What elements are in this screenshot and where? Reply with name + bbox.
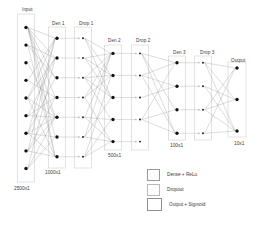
node-den2-1 bbox=[111, 74, 114, 77]
edge-drop2-den3-0-0 bbox=[142, 53, 175, 62]
node-drop3-0 bbox=[202, 62, 204, 64]
edge-drop1-den2-1-0 bbox=[85, 53, 111, 58]
edge-input-den1-0-5 bbox=[28, 27, 55, 137]
arrowhead-den1-drop1-6 bbox=[78, 156, 79, 158]
dim-label-output: 10x1 bbox=[234, 141, 244, 146]
node-drop3-1 bbox=[202, 85, 204, 87]
edge-drop3-output-3-0 bbox=[205, 68, 235, 133]
edge-drop1-den2-0-2 bbox=[85, 38, 111, 97]
node-output-2 bbox=[235, 129, 238, 132]
arrowhead-den1-drop1-1 bbox=[78, 57, 79, 59]
node-den1-0 bbox=[55, 37, 58, 40]
node-den1-1 bbox=[55, 56, 58, 59]
arrowhead-den2-drop2-3 bbox=[135, 119, 136, 121]
node-drop3-3 bbox=[202, 132, 204, 134]
node-drop2-1 bbox=[139, 75, 141, 77]
node-input-1 bbox=[24, 43, 27, 46]
layer-label-den2: Den 2 bbox=[108, 38, 121, 43]
arrowhead-den1-drop1-2 bbox=[78, 77, 79, 79]
node-den1-2 bbox=[55, 76, 58, 79]
layer-label-drop1: Drop 1 bbox=[79, 21, 93, 26]
arrowhead-den3-drop3-1 bbox=[198, 85, 199, 87]
node-drop1-6 bbox=[82, 156, 84, 158]
node-input-7 bbox=[24, 149, 27, 152]
edge-input-den1-2-4 bbox=[28, 63, 55, 118]
edge-input-den1-0-1 bbox=[28, 27, 55, 58]
node-den2-0 bbox=[111, 52, 114, 55]
layer-box-den3 bbox=[169, 56, 186, 140]
node-input-3 bbox=[24, 79, 27, 82]
diagram-canvas: Input Den 1 Drop 1 Den 2 Drop 2 Den 3 Dr… bbox=[0, 0, 266, 225]
node-drop1-3 bbox=[82, 97, 84, 99]
node-den2-4 bbox=[111, 140, 114, 143]
node-den2-3 bbox=[111, 118, 114, 121]
node-output-1 bbox=[235, 98, 238, 101]
legend-swatch-dense bbox=[147, 169, 160, 181]
edge-drop1-den2-2-1 bbox=[85, 75, 111, 77]
edge-drop2-den3-1-0 bbox=[142, 63, 175, 76]
legend-item-drop: Dropout bbox=[147, 183, 184, 196]
node-drop1-0 bbox=[82, 37, 84, 39]
edge-drop2-den3-1-3 bbox=[142, 75, 175, 133]
layer-label-den3: Den 3 bbox=[173, 50, 186, 55]
node-den2-2 bbox=[111, 96, 114, 99]
arrowhead-den1-drop1-5 bbox=[78, 136, 79, 138]
edge-drop3-output-0-1 bbox=[205, 63, 235, 100]
dim-label-den1: 1000x1 bbox=[45, 170, 61, 175]
node-drop2-0 bbox=[139, 52, 141, 54]
node-drop2-4 bbox=[139, 141, 141, 143]
arrowhead-den3-drop3-3 bbox=[198, 132, 199, 134]
edge-drop1-den2-4-3 bbox=[85, 117, 111, 119]
edge-drop3-output-3-2 bbox=[205, 131, 235, 133]
edge-input-den1-0-4 bbox=[28, 27, 55, 117]
arrowhead-den3-drop3-2 bbox=[198, 109, 199, 111]
arrowhead-den1-drop1-3 bbox=[78, 97, 79, 99]
legend-swatch-out bbox=[147, 198, 162, 211]
node-drop1-5 bbox=[82, 136, 84, 138]
node-input-6 bbox=[24, 132, 27, 135]
arrowhead-den1-drop1-0 bbox=[78, 37, 79, 39]
layer-label-drop3: Drop 3 bbox=[200, 50, 214, 55]
dim-label-den2: 500x1 bbox=[108, 153, 121, 158]
edge-drop2-den3-2-1 bbox=[142, 86, 175, 97]
edge-drop1-den2-3-0 bbox=[85, 53, 111, 97]
node-den1-4 bbox=[55, 116, 58, 119]
node-drop2-2 bbox=[139, 97, 141, 99]
arrowhead-den2-drop2-2 bbox=[135, 97, 136, 99]
node-den3-1 bbox=[175, 85, 178, 88]
dropout-arrows bbox=[60, 37, 200, 157]
edge-drop1-den2-5-2 bbox=[85, 98, 111, 137]
dim-label-den3: 100x1 bbox=[170, 143, 183, 148]
layer-box-drop3 bbox=[195, 56, 212, 140]
edge-drop1-den2-3-4 bbox=[85, 98, 111, 142]
legend-item-out: Output + Sigmoid bbox=[147, 198, 205, 211]
node-den1-3 bbox=[55, 96, 58, 99]
edge-input-den1-0-0 bbox=[28, 27, 55, 38]
node-drop3-2 bbox=[202, 109, 204, 111]
node-output-0 bbox=[235, 66, 238, 69]
legend-swatch-drop bbox=[147, 184, 160, 196]
layer-boxes bbox=[18, 14, 247, 182]
arrowhead-den2-drop2-4 bbox=[135, 141, 136, 143]
layer-label-drop2: Drop 2 bbox=[136, 38, 150, 43]
node-den3-3 bbox=[175, 132, 178, 135]
edge-drop1-den2-3-1 bbox=[85, 75, 111, 97]
legend-label-dense: Dense + ReLu bbox=[167, 172, 197, 177]
node-input-2 bbox=[24, 61, 27, 64]
node-den1-6 bbox=[55, 155, 58, 158]
layer-label-input: Input bbox=[22, 7, 33, 12]
edge-drop1-den2-5-0 bbox=[85, 53, 111, 137]
edge-input-den1-5-4 bbox=[28, 116, 55, 118]
arrowhead-den1-drop1-4 bbox=[78, 116, 79, 118]
node-input-4 bbox=[24, 96, 27, 99]
edge-drop2-den3-0-3 bbox=[142, 53, 175, 133]
edge-drop3-output-2-0 bbox=[205, 68, 235, 110]
edge-drop3-output-0-0 bbox=[205, 63, 235, 68]
legend-item-dense: Dense + ReLu bbox=[147, 168, 197, 181]
node-input-0 bbox=[24, 26, 27, 29]
edge-drop2-den3-1-1 bbox=[142, 75, 175, 86]
layer-label-output: Output bbox=[231, 58, 245, 63]
legend-label-out: Output + Sigmoid bbox=[169, 202, 205, 207]
edge-drop1-den2-5-4 bbox=[85, 137, 111, 142]
edge-drop1-den2-1-2 bbox=[85, 58, 111, 97]
